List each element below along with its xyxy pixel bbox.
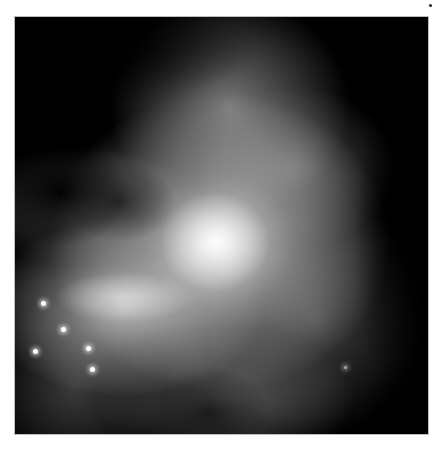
- star: [41, 301, 46, 306]
- nebula-photo: Black-and-white image of a bright emissi…: [14, 16, 429, 435]
- star: [86, 346, 91, 351]
- dust-lanes: [15, 17, 428, 434]
- star: [61, 327, 66, 332]
- dust-speck: [429, 4, 432, 7]
- star: [33, 349, 38, 354]
- star: [90, 367, 95, 372]
- star: [344, 366, 347, 369]
